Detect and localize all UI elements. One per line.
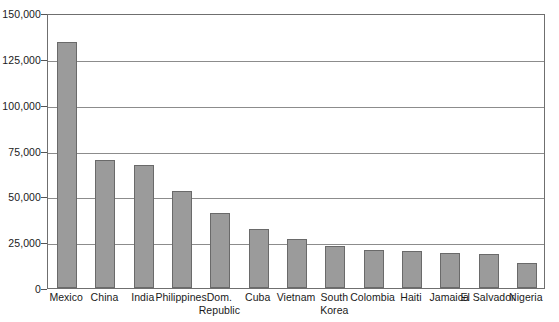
- y-axis-tick-label: 100,000: [2, 100, 41, 112]
- bar: [402, 251, 422, 288]
- bar: [517, 263, 537, 288]
- x-axis-labels: MexicoChinaIndiaPhilippinesDom. Republic…: [47, 291, 545, 322]
- bar: [134, 165, 154, 288]
- bar: [172, 191, 192, 288]
- y-axis-tick-label: 50,000: [8, 191, 41, 203]
- plot-area: [47, 14, 545, 289]
- bar-chart: 025,00050,00075,000100,000125,000150,000…: [0, 0, 559, 322]
- y-axis-tick-label: 125,000: [2, 54, 41, 66]
- bar: [325, 246, 345, 288]
- bar: [249, 229, 269, 288]
- y-axis-tick-label: 25,000: [8, 237, 41, 249]
- y-axis-tick-label: 150,000: [2, 8, 41, 20]
- bar: [287, 239, 307, 289]
- y-axis-tick-label: 75,000: [8, 146, 41, 158]
- y-axis-tick: [41, 289, 47, 290]
- bar: [440, 253, 460, 288]
- bar: [57, 42, 77, 288]
- bars: [48, 15, 544, 288]
- bar: [479, 254, 499, 288]
- bar: [364, 250, 384, 289]
- x-axis-category-label: Nigeria: [498, 291, 553, 304]
- bar: [95, 160, 115, 288]
- bar: [210, 213, 230, 288]
